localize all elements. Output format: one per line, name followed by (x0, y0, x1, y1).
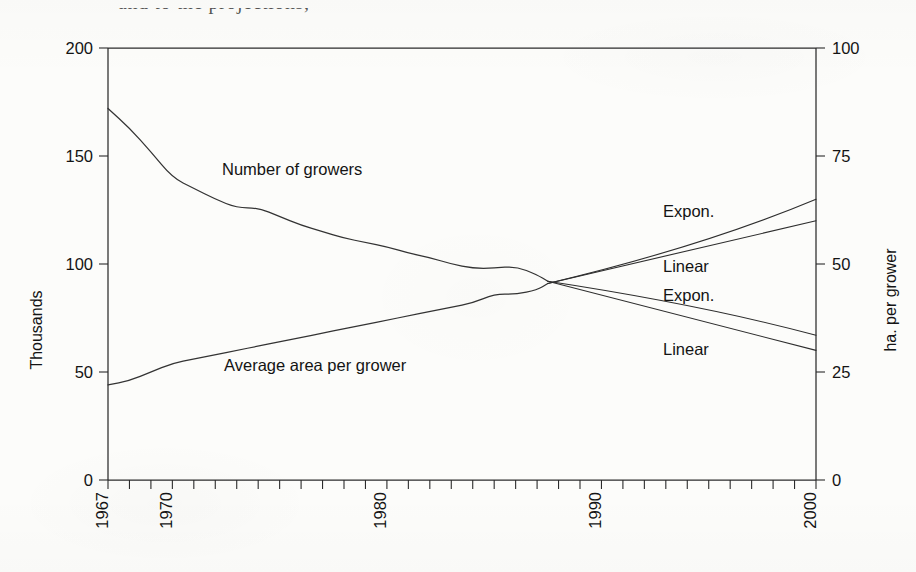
figure-container: and to the projections, 200 150 100 50 0… (0, 0, 916, 572)
left-axis-ticks (99, 48, 108, 480)
left-tick-label-0: 0 (84, 471, 93, 489)
left-tick-label-200: 200 (65, 39, 93, 57)
projection-label-expon-lower: Expon. (663, 286, 714, 304)
left-axis-tick-labels: 200 150 100 50 0 (65, 39, 93, 489)
right-tick-label-25: 25 (832, 363, 850, 381)
x-tick-label-2000: 2000 (801, 492, 819, 529)
projection-label-expon-upper: Expon. (663, 202, 714, 220)
right-tick-label-50: 50 (832, 255, 850, 273)
x-tick-label-1980: 1980 (371, 492, 389, 529)
projection-label-linear-upper: Linear (663, 257, 709, 275)
plot-frame (108, 48, 816, 480)
left-tick-label-150: 150 (65, 147, 93, 165)
right-tick-label-0: 0 (832, 471, 841, 489)
series-line-number-of-growers (108, 108, 548, 281)
left-axis-title: Thousands (28, 290, 45, 369)
x-axis-tick-labels: 1967 1970 1980 1990 2000 (93, 492, 819, 529)
x-axis-ticks (108, 480, 816, 489)
growers-series-label: Number of growers (222, 160, 362, 178)
projection-label-linear-lower: Linear (663, 340, 709, 358)
x-tick-label-1967: 1967 (93, 492, 111, 529)
right-tick-label-75: 75 (832, 147, 850, 165)
right-axis-ticks (816, 48, 825, 480)
growers-and-area-chart: 200 150 100 50 0 Thousands 100 75 50 25 … (0, 0, 916, 572)
x-tick-label-1990: 1990 (586, 492, 604, 529)
right-tick-label-100: 100 (832, 39, 860, 57)
left-tick-label-100: 100 (65, 255, 93, 273)
left-tick-label-50: 50 (75, 363, 93, 381)
right-axis-tick-labels: 100 75 50 25 0 (832, 39, 860, 489)
x-tick-label-1970: 1970 (157, 492, 175, 529)
right-axis-title: ha. per grower (882, 248, 899, 352)
area-series-label: Average area per grower (224, 356, 407, 374)
